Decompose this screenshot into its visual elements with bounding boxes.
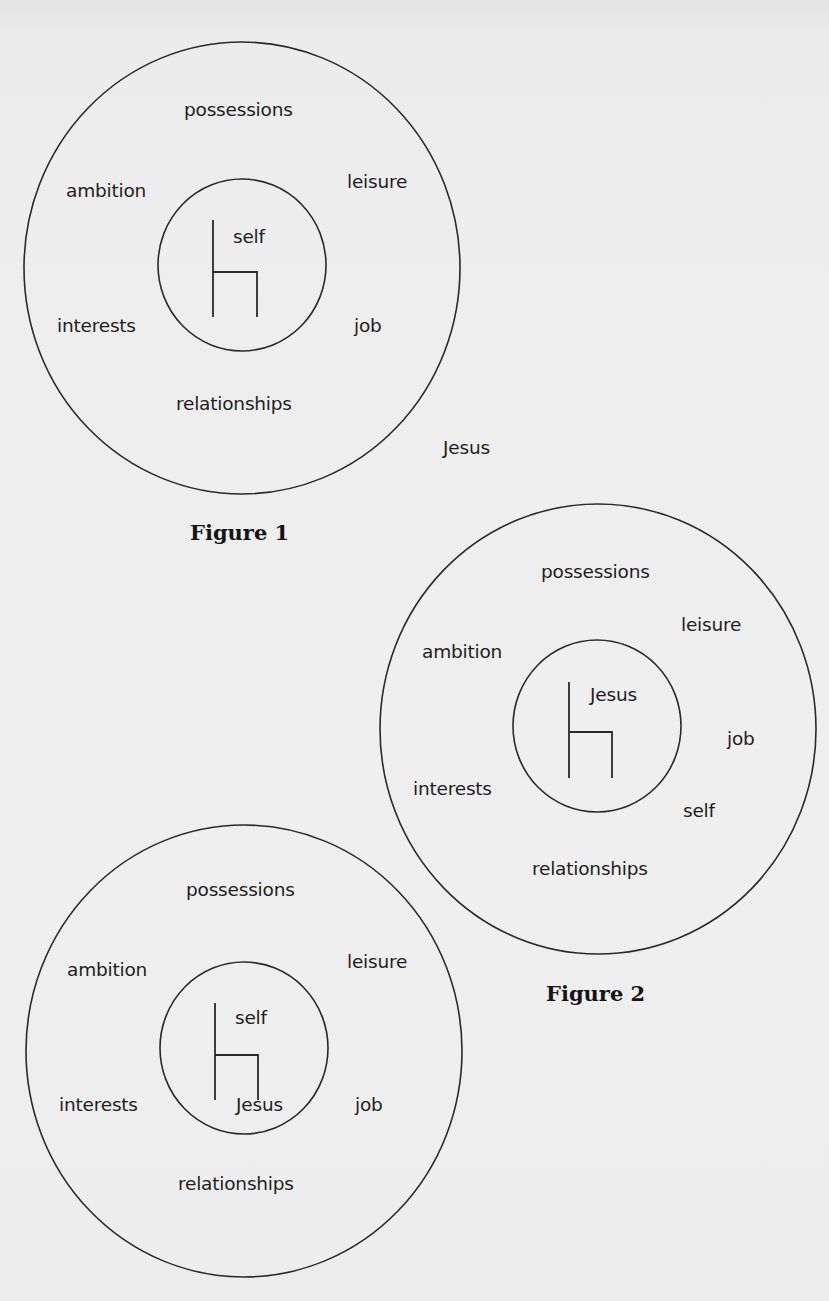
figure-2-label-ambition: ambition [422,643,502,662]
figure-3-label-ambition: ambition [67,961,147,980]
figure-2-label-interests: interests [413,780,492,799]
figure-1-caption: Figure 1 [190,522,289,543]
page: possessions ambition leisure self intere… [0,0,829,1301]
figure-1-label-throne-self: self [233,228,265,247]
figure-3-label-job: job [355,1096,383,1115]
figure-2-label-throne-jesus: Jesus [590,686,637,705]
figure-3-label-possessions: possessions [186,881,295,900]
figure-3-label-beside-throne-jesus: Jesus [236,1096,283,1115]
figure-1-label-job: job [354,317,382,336]
figure-1-label-outside-jesus: Jesus [443,439,490,458]
figure-3-label-relationships: relationships [178,1175,294,1194]
figure-3-label-interests: interests [59,1096,138,1115]
figure-1-label-relationships: relationships [176,395,292,414]
figure-1-inner-circle [158,179,326,351]
figure-2-inner-circle [513,640,681,812]
figure-1-label-interests: interests [57,317,136,336]
figure-3-label-throne-self: self [235,1009,267,1028]
figure-1-label-ambition: ambition [66,182,146,201]
figure-1-label-possessions: possessions [184,101,293,120]
figure-1-label-leisure: leisure [347,173,407,192]
figure-2-label-job: job [727,730,755,749]
figure-2-label-possessions: possessions [541,563,650,582]
figure-2-label-leisure: leisure [681,616,741,635]
figure-3-label-leisure: leisure [347,953,407,972]
figure-2-caption: Figure 2 [546,983,645,1004]
figure-2-label-self: self [683,802,715,821]
figure-2-label-relationships: relationships [532,860,648,879]
